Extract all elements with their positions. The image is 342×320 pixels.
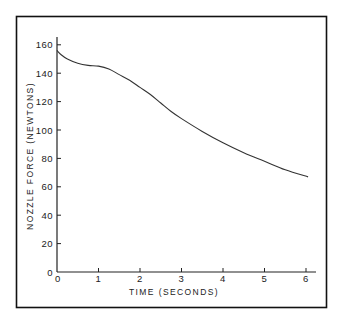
- x-tick-label: 5: [262, 273, 268, 284]
- x-axis-label: TIME (SECONDS): [129, 287, 219, 297]
- x-tick-label: 4: [220, 273, 226, 284]
- x-tick-label: 3: [179, 273, 185, 284]
- line-chart: 020406080100120140160 0123456 TIME (SECO…: [0, 0, 342, 320]
- y-tick-label: 60: [41, 181, 53, 192]
- y-tick-label: 140: [36, 68, 53, 79]
- x-tick-label: 1: [96, 273, 102, 284]
- y-tick-label: 120: [36, 96, 53, 107]
- y-tick-label: 100: [36, 125, 53, 136]
- force-curve: [57, 50, 308, 176]
- x-axis-ticks: 0123456: [55, 268, 309, 284]
- y-tick-label: 20: [41, 238, 53, 249]
- axes: [57, 37, 316, 272]
- x-tick-label: 0: [55, 273, 61, 284]
- y-tick-label: 0: [47, 267, 53, 278]
- y-tick-label: 80: [41, 153, 53, 164]
- figure-frame: [17, 17, 327, 308]
- y-axis-label: NOZZLE FORCE (NEWTONS): [25, 82, 35, 230]
- x-tick-label: 6: [303, 273, 309, 284]
- y-tick-label: 160: [36, 39, 53, 50]
- x-tick-label: 2: [137, 273, 143, 284]
- y-tick-label: 40: [41, 210, 53, 221]
